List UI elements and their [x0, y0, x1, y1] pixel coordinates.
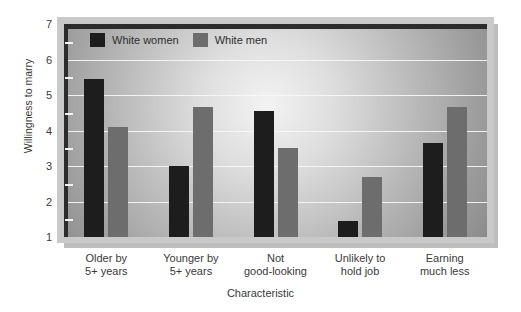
x-axis-tick-label-line: Earning: [420, 252, 470, 265]
y-axis-minor-tick: [65, 77, 73, 79]
y-axis-tick-label: 1: [46, 232, 52, 243]
chart-legend: White women White men: [86, 31, 271, 49]
x-axis-tick-label-line: hold job: [335, 265, 386, 278]
x-axis-tick-labels: Older by5+ yearsYounger by5+ yearsNotgoo…: [64, 252, 487, 286]
bar-white-women: [84, 79, 104, 237]
x-axis-tick-label: Older by5+ years: [85, 252, 128, 278]
y-axis-tick-label: 4: [46, 125, 52, 136]
x-axis-tick-label: Earningmuch less: [420, 252, 470, 278]
bar-white-women: [169, 166, 189, 237]
y-axis-tick-label: 3: [46, 161, 52, 172]
plot-inner-border-left: [64, 24, 68, 237]
plot-area: [64, 24, 487, 237]
bar-white-women: [338, 221, 358, 237]
legend-label-white-women: White women: [112, 34, 179, 46]
x-axis-tick-label-line: Not: [244, 252, 307, 265]
x-axis-tick-label-line: 5+ years: [85, 265, 128, 278]
x-axis-tick-label-line: Unlikely to: [335, 252, 386, 265]
gridline: [64, 60, 487, 61]
bar-white-men: [362, 177, 382, 237]
y-axis-tick-label: 7: [46, 19, 52, 30]
y-axis-minor-tick: [65, 148, 73, 150]
chart-figure: 7654321 Willingness to marry Older by5+ …: [0, 0, 521, 312]
bar-white-men: [447, 107, 467, 237]
legend-label-white-men: White men: [215, 34, 268, 46]
gridline: [64, 95, 487, 96]
legend-swatch-white-women: [90, 33, 105, 47]
x-axis-title: Characteristic: [0, 287, 521, 299]
plot-inner-border-top: [64, 24, 487, 29]
y-axis-title: Willingness to marry: [22, 26, 34, 186]
y-axis-minor-tick: [65, 219, 73, 221]
x-axis-tick-label: Notgood-looking: [244, 252, 307, 278]
bar-white-men: [108, 127, 128, 237]
x-axis-tick-label-line: Older by: [85, 252, 128, 265]
x-axis-tick-label: Younger by5+ years: [163, 252, 218, 278]
bar-white-women: [254, 111, 274, 237]
x-axis-tick-label-line: good-looking: [244, 265, 307, 278]
y-axis-tick-label: 2: [46, 196, 52, 207]
x-axis-tick-label-line: 5+ years: [163, 265, 218, 278]
y-axis-minor-tick: [65, 184, 73, 186]
bar-white-men: [193, 107, 213, 237]
legend-swatch-white-men: [193, 33, 208, 47]
bar-white-women: [423, 143, 443, 237]
y-axis-tick-label: 6: [46, 54, 52, 65]
bar-white-men: [278, 148, 298, 237]
legend-entry-white-men: White men: [193, 33, 268, 47]
legend-entry-white-women: White women: [90, 33, 179, 47]
y-axis-tick-label: 5: [46, 90, 52, 101]
y-axis-minor-tick: [65, 113, 73, 115]
y-axis-minor-tick: [65, 42, 73, 44]
x-axis-tick-label-line: much less: [420, 265, 470, 278]
x-axis-tick-label: Unlikely tohold job: [335, 252, 386, 278]
x-axis-tick-label-line: Younger by: [163, 252, 218, 265]
